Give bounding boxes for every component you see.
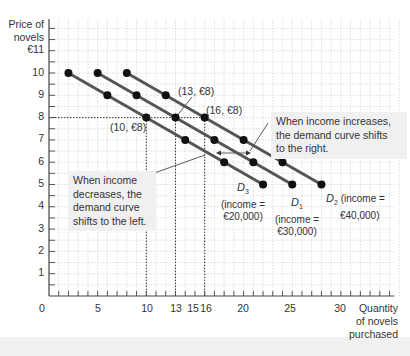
- data-point: [123, 69, 131, 77]
- x-tick-10: 10: [137, 302, 157, 314]
- d3-sub: 3: [245, 188, 249, 195]
- d3-income-line1: (income =: [218, 199, 268, 212]
- curve-label-d3: D3 (income = €20,000): [218, 181, 268, 224]
- y-tick-4: 4: [22, 199, 44, 211]
- y-tick-9: 9: [22, 88, 44, 100]
- data-point: [240, 136, 248, 144]
- point-label-10-8: (10, €8): [110, 121, 146, 134]
- d3-income-line2: €20,000): [218, 211, 268, 224]
- x-tick-0: 0: [32, 302, 52, 314]
- note-increase-line2: the demand curve shifts: [276, 129, 402, 143]
- d1-income-line2: €30,000): [272, 226, 322, 239]
- y-tick-10: 10: [22, 66, 44, 78]
- d1-income-line1: (income =: [272, 214, 322, 227]
- note-increase-line1: When income increases,: [276, 115, 402, 129]
- y-tick-8: 8: [22, 110, 44, 122]
- y-axis-title-line1: Price of: [8, 18, 44, 31]
- d2-sub: 2: [334, 199, 338, 206]
- data-point: [181, 136, 189, 144]
- data-point: [288, 181, 296, 189]
- curve-label-d1: D1 (income = €30,000): [272, 196, 322, 239]
- data-point: [279, 158, 287, 166]
- point-label-16-8: (16, €8): [206, 104, 242, 117]
- y-tick-6: 6: [22, 155, 44, 167]
- d1-sub: 1: [299, 203, 303, 210]
- y-tick-1: 1: [22, 266, 44, 278]
- note-income-decrease: When income decreases, the demand curve …: [68, 171, 156, 231]
- x-tick-30: 30: [330, 302, 350, 314]
- d2-income-line1: (income =: [341, 193, 385, 204]
- data-point: [317, 181, 325, 189]
- x-tick-25: 25: [280, 302, 300, 314]
- data-point: [162, 91, 170, 99]
- curve-label-d2: D2 (income = €40,000): [326, 192, 408, 222]
- data-point: [171, 114, 179, 122]
- note-income-increase: When income increases, the demand curve …: [271, 112, 407, 159]
- d2-income-line2: €40,000): [326, 210, 408, 223]
- note-decrease-line2: decreases, the: [73, 188, 151, 202]
- x-tick-5: 5: [88, 302, 108, 314]
- x-axis-title-line3: purchased: [336, 328, 398, 341]
- y-tick-11: €11: [22, 43, 44, 55]
- data-point: [103, 91, 111, 99]
- point-label-13-8: (13, €8): [178, 85, 214, 98]
- x-axis-title-line1: Quantity: [352, 302, 398, 315]
- d2-name: D: [326, 192, 334, 204]
- data-point: [94, 69, 102, 77]
- note-decrease-line3: demand curve: [73, 201, 151, 215]
- data-point: [220, 158, 228, 166]
- data-point: [133, 91, 141, 99]
- y-tick-5: 5: [22, 177, 44, 189]
- d3-name: D: [237, 181, 245, 193]
- y-tick-3: 3: [22, 222, 44, 234]
- data-point: [64, 69, 72, 77]
- x-axis-title-line2: of novels: [352, 315, 398, 328]
- d1-name: D: [291, 196, 299, 208]
- data-point: [249, 158, 257, 166]
- note-decrease-line4: shifts to the left.: [73, 215, 151, 229]
- note-decrease-line1: When income: [73, 174, 151, 188]
- x-tick-20: 20: [233, 302, 253, 314]
- note-increase-line3: to the right.: [276, 142, 402, 156]
- y-tick-7: 7: [22, 132, 44, 144]
- data-point: [210, 136, 218, 144]
- y-tick-2: 2: [22, 244, 44, 256]
- x-tick-16: 16: [196, 302, 216, 314]
